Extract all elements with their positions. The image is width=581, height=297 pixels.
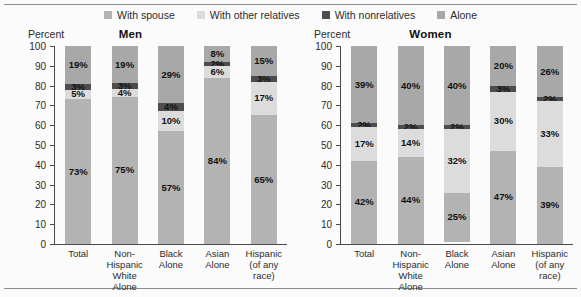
bar-segment: 19% [65,46,91,84]
bar-segment-label: 19% [115,60,134,70]
category-label-line: Alone [434,259,480,270]
bar-segment-label: 42% [355,198,374,208]
y-tick-label: 90 [321,60,332,71]
x-axis-line-women [340,244,573,245]
category-label: Total [55,248,101,292]
category-label-line: Hispanic [241,248,287,259]
bar-segment-label: 15% [254,56,273,66]
legend-label: With nonrelatives [335,9,416,21]
stacked-bar: 40%2%32%25% [444,46,470,244]
stacked-bar: 15%3%17%65% [251,46,277,244]
bar-group-women: 39%2%17%42%40%2%14%44%40%2%32%25%20%3%30… [341,46,573,244]
legend-label: Alone [450,9,477,21]
chart-legend: With spouseWith other relativesWith nonr… [0,9,581,21]
stacked-bar: 20%3%30%47% [490,46,516,244]
y-tick-label: 40 [321,159,332,170]
bar-segment: 10% [158,111,184,131]
bar-column: 8%2%6%84% [194,46,240,244]
legend-swatch-icon-alone [437,11,445,19]
bar-column: 20%3%30%47% [480,46,526,244]
bar-segment-label: 6% [210,67,224,77]
bar-segment-label: 26% [540,67,559,77]
bar-segment-label: 17% [254,94,273,104]
bar-segment: 84% [204,78,230,244]
stacked-bar: 40%2%14%44% [398,46,424,244]
category-label-line: Total [55,248,101,259]
y-tick-label: 40 [35,159,46,170]
legend-swatch-icon-with-nonrelatives [322,11,330,19]
category-label-line: White Alone [387,270,433,292]
bar-segment: 44% [398,157,424,244]
bar-segment: 17% [251,82,277,116]
x-axis-line-men [54,244,287,245]
category-label-line: Black [434,248,480,259]
bar-column: 19%3%4%75% [102,46,148,244]
bar-segment: 75% [112,97,138,244]
plot-area-women: 1009080706050403020100 39%2%17%42%40%2%1… [340,46,572,244]
category-label-line: White Alone [101,270,147,292]
bar-column: 26%2%33%39% [527,46,573,244]
bar-segment: 57% [158,131,184,244]
stacked-bar: 19%3%5%73% [65,46,91,244]
category-label-line: Non-Hispanic [101,248,147,270]
category-label: BlackAlone [148,248,194,292]
bar-column: 40%2%32%25% [434,46,480,244]
bar-segment-label: 5% [71,90,85,100]
y-tick-label: 0 [40,239,46,250]
category-label-line: Black [148,248,194,259]
bar-column: 29%4%10%57% [148,46,194,244]
y-tick-label: 0 [326,239,332,250]
y-tick-label: 70 [321,100,332,111]
y-tick-mark [336,244,341,245]
bar-segment-label: 20% [494,61,513,71]
bar-segment: 65% [251,115,277,244]
bar-column: 15%3%17%65% [241,46,287,244]
y-tick-label: 80 [35,80,46,91]
category-label-line: Asian [480,248,526,259]
category-label-line: Non-Hispanic [387,248,433,270]
bar-segment: 30% [490,92,516,151]
stacked-bar: 29%4%10%57% [158,46,184,244]
stacked-bar: 26%2%33%39% [537,46,563,244]
category-label-line: Hispanic [527,248,573,259]
legend-item-alone: Alone [437,9,477,21]
category-label: Non-HispanicWhite Alone [101,248,147,292]
panel-title-men: Men [0,28,273,40]
bar-segment: 42% [351,161,377,244]
category-label: AsianAlone [480,248,526,292]
category-labels-men: TotalNon-HispanicWhite AloneBlackAloneAs… [55,248,287,292]
y-tick-mark [50,244,55,245]
bar-column: 39%2%17%42% [341,46,387,244]
bar-segment-label: 17% [355,139,374,149]
y-tick-label: 50 [35,140,46,151]
chart-page: With spouseWith other relativesWith nonr… [0,0,581,297]
panel-men: Percent Men 1009080706050403020100 19%3%… [10,28,295,286]
bar-segment-label: 32% [447,156,466,166]
bar-group-men: 19%3%5%73%19%3%4%75%29%4%10%57%8%2%6%84%… [55,46,287,244]
y-tick-label: 30 [321,179,332,190]
bar-segment-label: 10% [161,116,180,126]
bar-segment: 19% [112,46,138,83]
category-label-line: Alone [148,259,194,270]
legend-label: With other relatives [210,9,300,21]
y-tick-label: 80 [321,80,332,91]
category-label-line: Alone [194,259,240,270]
category-label: Total [341,248,387,292]
y-tick-label: 50 [321,140,332,151]
bar-segment: 26% [537,46,563,97]
bar-segment-label: 33% [540,129,559,139]
bar-segment-label: 39% [540,201,559,211]
bar-segment-label: 75% [115,166,134,176]
bar-segment-label: 25% [447,213,466,223]
category-label: AsianAlone [194,248,240,292]
legend-item-with-spouse: With spouse [104,9,175,21]
bar-segment: 32% [444,129,470,192]
category-label-line: (of any race) [241,259,287,281]
legend-label: With spouse [117,9,175,21]
category-label: Hispanic(of any race) [527,248,573,292]
y-tick-label: 100 [315,41,332,52]
bar-segment-label: 39% [355,80,374,90]
bar-segment-label: 40% [447,81,466,91]
bar-segment-label: 47% [494,193,513,203]
category-label-line: (of any race) [527,259,573,281]
